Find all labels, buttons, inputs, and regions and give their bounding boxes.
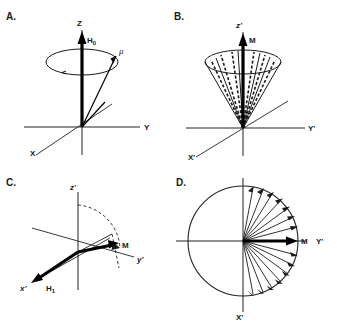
panel-a-y-axis-label: Y xyxy=(144,123,150,132)
panel-b-cone-left-edge xyxy=(205,62,243,128)
panel-c-h1-label: H1 xyxy=(46,284,56,294)
panel-b-m-arrowhead xyxy=(239,33,248,46)
panel-b-z-axis-label: z' xyxy=(235,21,243,30)
panel-c-z-axis-label: z' xyxy=(69,183,77,192)
panel-c-y-axis-label: y' xyxy=(136,255,144,264)
panel-b-label: B. xyxy=(174,11,184,22)
panel-d-x-axis-label: X' xyxy=(236,313,243,322)
panel-c-label: C. xyxy=(6,177,16,188)
panel-c-m-label: M xyxy=(122,241,129,250)
panel-a-secondary-moment xyxy=(82,102,105,127)
panel-a-mu-label: μ xyxy=(118,46,124,56)
panel-a: A. Z Y X H0 μ xyxy=(6,11,150,158)
panel-c-h1-arrowhead xyxy=(31,273,43,283)
panel-b-m-label: M xyxy=(249,36,256,45)
panel-c-x-axis-label: x' xyxy=(19,284,27,293)
panel-a-label: A. xyxy=(6,11,16,22)
panel-a-mu-vector xyxy=(82,56,116,127)
panel-b-cone-right-edge xyxy=(243,62,281,128)
panel-a-z-axis-label: Z xyxy=(77,19,82,28)
panel-d-y-axis-label: Y' xyxy=(316,237,323,246)
panel-d-label: D. xyxy=(176,177,186,188)
panel-a-precession-arrowhead xyxy=(62,71,66,74)
panel-c-y-axis xyxy=(32,228,134,257)
figure-canvas: A. Z Y X H0 μ B. xyxy=(0,0,337,323)
panel-b-y-axis-label: Y' xyxy=(308,124,315,133)
panel-c-h1-vector xyxy=(36,252,78,280)
panel-d-m-label: M xyxy=(301,237,308,246)
panel-d-isochromat-fan-upper xyxy=(243,186,298,241)
panel-b: B. z' Y' X' xyxy=(174,11,315,162)
panel-a-mu-arrowhead xyxy=(111,56,117,64)
panel-a-x-axis xyxy=(36,104,112,155)
panel-d-isochromat-fan-lower xyxy=(243,241,298,296)
panel-d-m-arrowhead xyxy=(286,237,298,246)
panel-b-x-axis-label: X' xyxy=(188,153,195,162)
panel-a-h0-label: H0 xyxy=(87,36,97,46)
panel-a-h0-arrowhead xyxy=(78,31,87,44)
panel-a-x-axis-label: X xyxy=(30,149,36,158)
panel-d: D. xyxy=(176,177,323,322)
panel-c: C. z' y' x' M H1 xyxy=(6,177,144,294)
